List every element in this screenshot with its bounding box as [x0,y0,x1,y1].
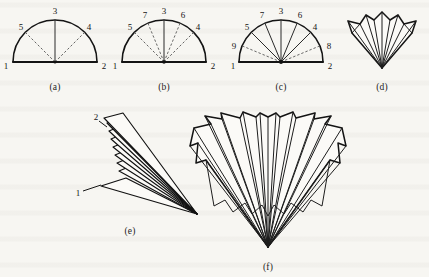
panel-caption-e: (e) [124,226,135,236]
figure-drawing [0,0,429,277]
panel-c-drawing [239,20,323,64]
panel-b-drawing [122,20,206,64]
panel-c-label-6: 6 [298,11,303,20]
panel-a-label-4: 4 [87,23,92,32]
panel-caption-c: (c) [275,82,286,92]
panel-b-label-5: 5 [128,23,133,32]
panel-b-spoke-7 [148,23,164,62]
panel-c-label-4: 4 [313,23,318,32]
panel-c-label-9: 9 [232,42,237,51]
panel-e-leader-1 [83,185,101,191]
panel-f-drawing [190,112,346,247]
panel-c-spoke-4 [281,32,311,62]
panel-e-leader-2 [99,121,107,127]
panel-caption-b: (b) [158,82,170,92]
panel-b-label-2: 2 [211,62,216,71]
panel-b-spoke-4 [164,32,194,62]
panel-a-center-dot [54,61,57,64]
panel-a-label-3: 3 [53,7,58,16]
panel-b-spoke-5 [134,32,164,62]
panel-e-label-1: 1 [76,189,81,198]
panel-d-drawing [348,12,416,68]
panel-a-spoke-4 [55,32,85,62]
panel-b-center-dot [162,60,166,64]
panel-c-spoke-5 [251,32,281,62]
panel-c-label-2: 2 [328,62,333,71]
panel-b-label-7: 7 [143,11,148,20]
panel-a-label-5: 5 [19,23,24,32]
panel-c-label-8: 8 [327,42,332,51]
panel-b-label-6: 6 [181,11,186,20]
panel-a-drawing [13,20,97,64]
panel-e-label-2: 2 [94,113,99,122]
panel-b-label-3: 3 [162,7,167,16]
panel-caption-d: (d) [376,82,388,92]
panel-a-label-1: 1 [4,62,9,71]
panel-c-label-3: 3 [279,7,284,16]
panel-a-label-2: 2 [102,62,107,71]
panel-b-label-4: 4 [196,23,201,32]
panel-a-spoke-5 [25,32,55,62]
panel-caption-a: (a) [49,82,60,92]
panel-c-label-1: 1 [231,62,236,71]
panel-c-label-7: 7 [260,11,265,20]
panel-caption-f: (f) [263,262,273,272]
panel-c-label-5: 5 [245,23,250,32]
panel-e-drawing [83,113,197,214]
figure-root: 3 5 4 1 2 (a) 3 7 6 5 4 1 2 (b) 3 7 6 5 … [0,0,429,277]
panel-c-center-dot [279,60,283,64]
panel-b-label-1: 1 [113,62,118,71]
panel-b-spoke-6 [164,23,180,62]
